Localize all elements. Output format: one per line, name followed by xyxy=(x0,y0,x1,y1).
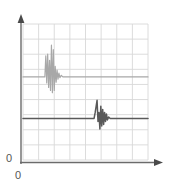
x-axis-origin-label: 0 xyxy=(15,170,21,181)
waveform-chart-figure: 0 0 xyxy=(0,0,172,191)
y-axis-origin-label: 0 xyxy=(6,153,12,164)
plot-canvas xyxy=(0,0,172,191)
